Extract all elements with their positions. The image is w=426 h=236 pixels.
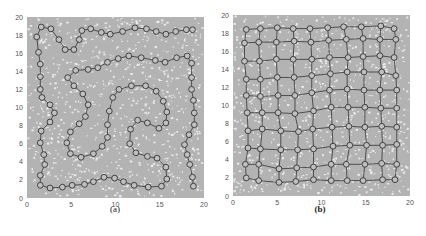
- node-marker: [345, 104, 351, 110]
- node-marker: [344, 178, 350, 184]
- x-tick-label: 15: [156, 201, 164, 208]
- node-marker: [379, 123, 385, 129]
- node-marker: [184, 152, 190, 158]
- x-tick-label: 0: [25, 201, 29, 208]
- node-marker: [377, 87, 383, 93]
- node-marker: [391, 26, 397, 32]
- node-marker: [274, 75, 280, 81]
- y-tick-label: 20: [15, 14, 23, 21]
- node-marker: [392, 177, 398, 183]
- node-marker: [47, 102, 53, 108]
- y-tick-label: 10: [15, 104, 23, 111]
- node-marker: [391, 55, 397, 61]
- node-marker: [311, 146, 317, 152]
- y-tick-label: 14: [221, 66, 229, 73]
- node-marker: [132, 25, 138, 31]
- node-marker: [378, 23, 384, 29]
- node-marker: [245, 145, 251, 151]
- node-marker: [39, 95, 45, 101]
- y-tick-label: 18: [221, 30, 229, 37]
- node-marker: [163, 120, 169, 126]
- node-marker: [62, 47, 68, 53]
- node-marker: [191, 122, 197, 128]
- x-tick-label: 5: [69, 201, 73, 208]
- node-marker: [98, 30, 104, 36]
- y-tick-label: 20: [221, 12, 229, 19]
- node-marker: [76, 121, 82, 127]
- node-marker: [71, 83, 77, 89]
- figure-panel-a: 0510152002468101214161820 (a): [0, 0, 213, 236]
- node-marker: [164, 176, 170, 182]
- node-marker: [83, 114, 89, 120]
- y-tick-label: 8: [19, 122, 23, 129]
- node-marker: [394, 124, 400, 130]
- node-marker: [379, 69, 385, 75]
- node-marker: [174, 55, 180, 61]
- node-marker: [80, 91, 86, 97]
- node-marker: [95, 65, 101, 71]
- node-marker: [37, 74, 43, 80]
- node-marker: [37, 140, 43, 146]
- node-marker: [296, 129, 302, 135]
- plot-a: 0510152002468101214161820: [0, 0, 213, 236]
- y-tick-label: 4: [225, 156, 229, 163]
- node-marker: [85, 102, 91, 108]
- node-marker: [243, 161, 249, 167]
- node-marker: [360, 178, 366, 184]
- node-marker: [91, 151, 97, 157]
- y-tick-label: 14: [15, 68, 23, 75]
- node-marker: [110, 95, 116, 101]
- x-tick-label: 15: [362, 199, 370, 206]
- y-tick-label: 4: [19, 158, 23, 165]
- node-marker: [79, 28, 85, 34]
- node-marker: [131, 182, 137, 188]
- node-marker: [258, 146, 264, 152]
- caption-b: (b): [300, 204, 340, 214]
- node-marker: [274, 56, 280, 62]
- node-marker: [291, 75, 297, 81]
- x-tick-label: 0: [231, 199, 235, 206]
- node-marker: [145, 120, 151, 126]
- node-marker: [380, 177, 386, 183]
- node-marker: [107, 31, 113, 37]
- node-marker: [328, 161, 334, 167]
- node-marker: [393, 37, 399, 43]
- node-marker: [377, 53, 383, 59]
- node-marker: [65, 75, 71, 81]
- node-marker: [156, 125, 162, 131]
- y-tick-label: 8: [225, 120, 229, 127]
- caption-a: (a): [95, 204, 135, 214]
- node-marker: [380, 142, 386, 148]
- node-marker: [37, 61, 43, 67]
- node-marker: [325, 25, 331, 31]
- node-marker: [293, 179, 299, 185]
- node-marker: [184, 53, 190, 59]
- node-marker: [393, 73, 399, 79]
- node-marker: [291, 38, 297, 44]
- node-marker: [38, 128, 44, 134]
- node-marker: [276, 180, 282, 186]
- node-marker: [343, 161, 349, 167]
- node-marker: [183, 27, 189, 33]
- node-marker: [162, 59, 168, 65]
- node-marker: [47, 119, 53, 125]
- node-marker: [274, 25, 280, 31]
- node-marker: [190, 174, 196, 180]
- node-marker: [105, 122, 111, 128]
- node-marker: [105, 135, 111, 141]
- node-marker: [186, 132, 192, 138]
- node-marker: [362, 104, 368, 110]
- node-marker: [133, 150, 139, 156]
- node-marker: [112, 175, 118, 181]
- node-marker: [47, 185, 53, 191]
- node-marker: [37, 87, 43, 93]
- node-marker: [41, 152, 47, 158]
- node-marker: [364, 142, 370, 148]
- node-marker: [76, 37, 82, 43]
- node-marker: [127, 141, 133, 147]
- node-marker: [378, 105, 384, 111]
- node-marker: [379, 161, 385, 167]
- node-marker: [163, 164, 169, 170]
- y-tick-label: 0: [19, 195, 23, 202]
- node-marker: [189, 87, 195, 93]
